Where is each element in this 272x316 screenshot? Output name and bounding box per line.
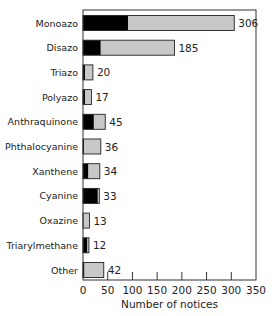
value-label: 20 bbox=[97, 66, 110, 78]
category-label: Triazo bbox=[49, 67, 78, 78]
category-label: Anthraquinone bbox=[8, 116, 79, 127]
value-label: 185 bbox=[178, 42, 198, 54]
value-label: 36 bbox=[105, 141, 119, 153]
x-tick-label: 0 bbox=[80, 284, 87, 296]
labels-group: Monoazo306Disazo185Triazo20Polyazo17Anth… bbox=[5, 17, 259, 276]
x-tick-label: 250 bbox=[197, 284, 217, 296]
category-label: Xanthene bbox=[32, 166, 78, 177]
bar-segment-dark bbox=[83, 16, 128, 31]
bar-segment-light bbox=[128, 16, 234, 31]
x-tick-label: 350 bbox=[246, 284, 266, 296]
category-label: Oxazine bbox=[40, 215, 79, 226]
x-tick-label: 200 bbox=[172, 284, 192, 296]
value-label: 42 bbox=[108, 264, 121, 276]
bar-segment-dark bbox=[83, 164, 88, 179]
category-label: Cyanine bbox=[39, 190, 78, 201]
bar-segment-dark bbox=[83, 40, 101, 55]
value-label: 17 bbox=[95, 91, 108, 103]
category-label: Other bbox=[51, 265, 78, 276]
category-label: Disazo bbox=[46, 42, 78, 53]
bar-segment-light bbox=[84, 263, 103, 278]
bar-segment-light bbox=[83, 213, 89, 228]
stacked-bar-chart: Monoazo306Disazo185Triazo20Polyazo17Anth… bbox=[0, 0, 272, 316]
bar-segment-light bbox=[85, 90, 91, 105]
x-tick-label: 150 bbox=[147, 284, 167, 296]
bar-segment-dark bbox=[83, 188, 98, 203]
category-label: Phthalocyanine bbox=[5, 141, 78, 152]
category-label: Triarylmethane bbox=[6, 240, 79, 251]
x-axis-title: Number of notices bbox=[121, 298, 218, 310]
category-label: Monoazo bbox=[36, 18, 79, 29]
bar-segment-light bbox=[85, 65, 93, 80]
category-label: Polyazo bbox=[42, 92, 78, 103]
bar-segment-light bbox=[88, 164, 99, 179]
bar-segment-light bbox=[101, 40, 175, 55]
value-label: 45 bbox=[109, 116, 122, 128]
value-label: 34 bbox=[104, 165, 118, 177]
value-label: 13 bbox=[93, 215, 106, 227]
x-tick-label: 300 bbox=[221, 284, 241, 296]
value-label: 12 bbox=[93, 239, 106, 251]
x-tick-label: 100 bbox=[122, 284, 142, 296]
bar-segment-light bbox=[94, 114, 105, 129]
bar-segment-dark bbox=[83, 114, 94, 129]
x-tick-label: 50 bbox=[101, 284, 114, 296]
value-label: 33 bbox=[103, 190, 116, 202]
bar-segment-light bbox=[84, 139, 101, 154]
bar-segment-dark bbox=[83, 238, 87, 253]
